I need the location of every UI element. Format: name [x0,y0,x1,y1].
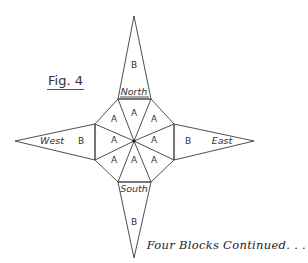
piece-b-north: B [131,60,137,70]
piece-a-sw: A [111,155,118,165]
piece-a-e: A [151,135,158,145]
piece-a-w: A [111,135,118,145]
piece-a-nw: A [111,114,118,124]
label-north: North [121,86,148,97]
piece-b-east: B [185,136,191,146]
center-point [132,139,135,142]
figure-title: Fig. 4 [47,74,84,90]
label-south: South [120,183,148,194]
piece-b-west: B [78,136,84,146]
piece-a-se: A [151,155,158,165]
piece-a-ne: A [151,114,158,124]
piece-b-south: B [131,217,137,227]
continued-caption: Four Blocks Continued. . . [147,238,306,252]
piece-a-n: A [131,108,138,118]
label-east: East [212,135,234,146]
label-west: West [40,135,65,146]
star-block-diagram: A A A A A A A A B B B B North South West… [0,0,308,263]
piece-a-s: A [131,155,138,165]
